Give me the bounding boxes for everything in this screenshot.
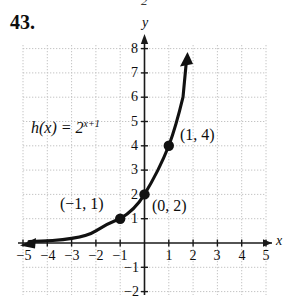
y-tick-label: 4 bbox=[124, 139, 138, 153]
y-tick-label: 7 bbox=[124, 66, 138, 80]
y-tick-label: −2 bbox=[117, 285, 139, 299]
x-tick-label: 3 bbox=[211, 249, 223, 263]
y-axis-label: y bbox=[142, 16, 148, 30]
y-tick-label: 6 bbox=[124, 90, 138, 104]
y-tick-label: 3 bbox=[124, 163, 138, 177]
y-tick-label: 1 bbox=[124, 212, 138, 226]
y-tick-label: 5 bbox=[124, 115, 138, 129]
point-label-neg1-1: (−1, 1) bbox=[60, 196, 104, 212]
x-tick-label: −4 bbox=[40, 249, 56, 263]
y-tick-label: −1 bbox=[117, 261, 139, 275]
point-marker bbox=[164, 141, 174, 151]
x-tick-label: 5 bbox=[260, 249, 272, 263]
y-tick-label: 2 bbox=[124, 188, 138, 202]
x-axis-label: x bbox=[276, 234, 282, 248]
x-tick-label: 2 bbox=[187, 249, 199, 263]
x-tick-label: −5 bbox=[16, 249, 32, 263]
x-tick-label: 1 bbox=[163, 249, 175, 263]
equation-exponent: x+1 bbox=[84, 118, 100, 129]
y-tick-label: 8 bbox=[124, 42, 138, 56]
x-tick-label: −2 bbox=[88, 249, 104, 263]
equation-base: h(x) = 2 bbox=[31, 119, 84, 136]
x-tick-label: −3 bbox=[64, 249, 80, 263]
x-tick-label: 4 bbox=[236, 249, 248, 263]
function-equation-label: h(x) = 2x+1 bbox=[31, 120, 100, 136]
point-marker bbox=[139, 189, 149, 199]
y-axis bbox=[141, 34, 148, 295]
point-label-1-4: (1, 4) bbox=[180, 127, 215, 143]
point-label-0-2: (0, 2) bbox=[152, 198, 187, 214]
